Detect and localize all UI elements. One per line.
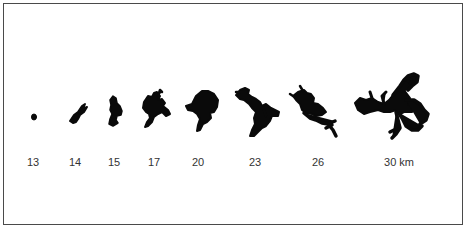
cluster-15 [109, 96, 122, 126]
distance-label: 17 [148, 156, 160, 168]
distance-label: 15 [108, 156, 120, 168]
cluster-26 [290, 86, 336, 136]
cluster-30 [355, 74, 428, 138]
cluster-growth-figure: 13 14 15 17 20 23 26 30 km [0, 0, 468, 231]
distance-label: 14 [69, 156, 81, 168]
distance-label: 23 [249, 156, 261, 168]
cluster-shapes [0, 0, 468, 231]
cluster-20 [186, 91, 218, 131]
distance-label: 20 [192, 156, 204, 168]
distance-label: 30 km [384, 156, 414, 168]
cluster-14 [70, 104, 87, 123]
cluster-17 [143, 90, 170, 127]
distance-label: 26 [312, 156, 324, 168]
distance-label: 13 [27, 156, 39, 168]
cluster-13 [32, 114, 37, 120]
cluster-23 [236, 88, 279, 136]
